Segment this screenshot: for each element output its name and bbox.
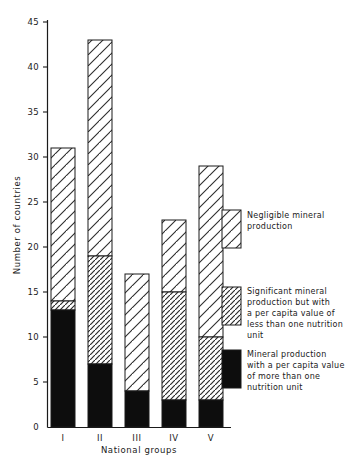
legend-label-line: unit bbox=[247, 331, 264, 340]
y-tick-label: 40 bbox=[27, 62, 39, 72]
y-axis-ticks: 45 40 35 30 25 20 15 10 5 0 bbox=[27, 17, 47, 432]
y-tick-label: 35 bbox=[27, 107, 39, 117]
x-axis-title: National groups bbox=[101, 445, 177, 455]
y-tick-label: 15 bbox=[27, 287, 39, 297]
legend-label-line: a per capita value of bbox=[247, 309, 335, 318]
legend-label-line: Negligible mineral bbox=[247, 211, 324, 220]
legend-item-negligible[interactable]: Negligible mineral production bbox=[222, 210, 324, 248]
chart-container: 45 40 35 30 25 20 15 10 5 0 Number of co… bbox=[0, 0, 349, 470]
legend-label-line: of more than one bbox=[247, 372, 320, 381]
legend-swatch-solid-black bbox=[222, 350, 241, 388]
legend-swatch-sparse-hatch bbox=[222, 210, 241, 248]
bar-group-I[interactable] bbox=[51, 148, 75, 427]
legend-label-line: nutrition unit bbox=[247, 383, 303, 392]
bar-segment-black bbox=[199, 400, 223, 427]
legend-item-significant[interactable]: Significant mineral production but with … bbox=[222, 287, 343, 340]
legend-label-line: less than one nutrition bbox=[247, 320, 343, 329]
bar-segment-sparse bbox=[162, 220, 186, 292]
legend-label-line: with a per capita value bbox=[247, 361, 345, 370]
x-tick-label-V: V bbox=[208, 433, 214, 443]
bar-segment-dense bbox=[162, 292, 186, 400]
bar-segment-sparse bbox=[125, 274, 149, 391]
y-tick-label: 30 bbox=[27, 152, 39, 162]
bar-segment-black bbox=[88, 364, 112, 427]
legend-label-line: Mineral production bbox=[247, 350, 327, 359]
x-tick-label-IV: IV bbox=[169, 433, 179, 443]
bar-chart: 45 40 35 30 25 20 15 10 5 0 Number of co… bbox=[0, 0, 349, 470]
bar-segment-sparse bbox=[199, 166, 223, 337]
y-axis-title: Number of countries bbox=[12, 176, 22, 275]
x-tick-label-I: I bbox=[61, 433, 64, 443]
bar-segment-black bbox=[51, 310, 75, 427]
y-tick-label: 0 bbox=[33, 422, 39, 432]
y-tick-label: 20 bbox=[27, 242, 39, 252]
bar-segment-black bbox=[125, 391, 149, 427]
bar-segment-sparse bbox=[51, 148, 75, 301]
x-tick-label-III: III bbox=[132, 433, 141, 443]
legend-item-major[interactable]: Mineral production with a per capita val… bbox=[222, 350, 345, 392]
bar-group-V[interactable] bbox=[199, 166, 223, 427]
legend: Negligible mineral production Significan… bbox=[222, 210, 345, 392]
bar-segment-sparse bbox=[88, 40, 112, 256]
x-axis-labels: I II III IV V bbox=[61, 433, 214, 443]
legend-label-line: production but with bbox=[247, 298, 330, 307]
legend-label-line: production bbox=[247, 222, 292, 231]
y-tick-label: 25 bbox=[27, 197, 39, 207]
legend-label-line: Significant mineral bbox=[247, 287, 327, 296]
bar-segment-dense bbox=[199, 337, 223, 400]
y-tick-label: 5 bbox=[33, 377, 39, 387]
y-tick-label: 45 bbox=[27, 17, 39, 27]
x-tick-label-II: II bbox=[97, 433, 103, 443]
bar-segment-dense bbox=[51, 301, 75, 310]
bar-group-II[interactable] bbox=[88, 40, 112, 427]
bar-group-III[interactable] bbox=[125, 274, 149, 427]
bar-segment-black bbox=[162, 400, 186, 427]
bar-group-IV[interactable] bbox=[162, 220, 186, 427]
y-tick-label: 10 bbox=[27, 332, 39, 342]
bar-segment-dense bbox=[88, 256, 112, 364]
legend-swatch-dense-hatch bbox=[222, 287, 241, 325]
